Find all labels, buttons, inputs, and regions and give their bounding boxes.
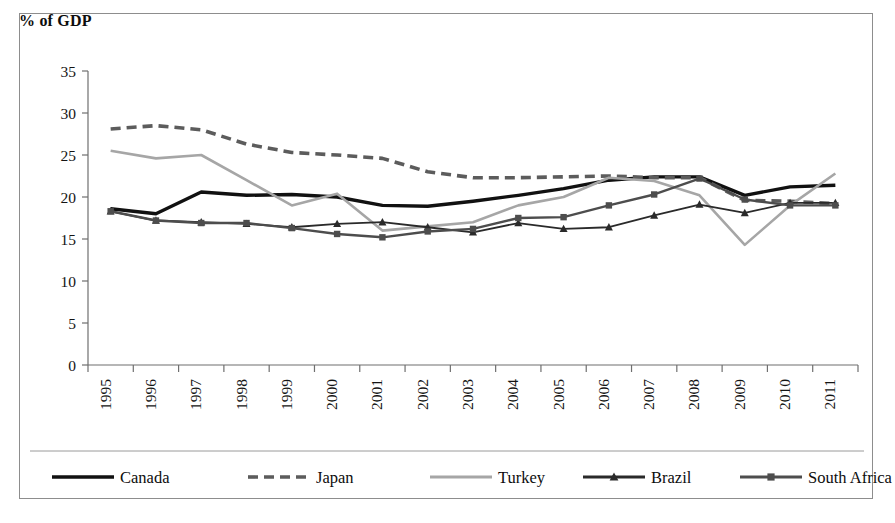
legend-item-label: Canada — [120, 468, 170, 487]
series-marker — [243, 220, 249, 226]
chart-legend: CanadaJapanTurkeyBrazilSouth Africa — [30, 451, 893, 487]
y-tick-label: 10 — [61, 273, 77, 290]
legend-item-label: Japan — [316, 468, 354, 487]
x-tick-label: 2006 — [595, 379, 612, 410]
y-tick-label: 0 — [68, 357, 76, 374]
x-tick-label: 1996 — [142, 379, 159, 410]
series-marker — [334, 231, 340, 237]
series-marker — [289, 225, 295, 231]
y-tick-label: 35 — [61, 63, 77, 80]
x-tick-label: 1999 — [278, 379, 295, 410]
legend-item-turkey[interactable]: Turkey — [430, 468, 546, 487]
series-marker — [198, 220, 204, 226]
series-marker — [695, 200, 703, 207]
x-tick-label: 2005 — [550, 379, 567, 410]
plot-area: 0510152025303519951996199719981999200020… — [61, 63, 859, 411]
legend-item-label: Brazil — [651, 468, 692, 487]
legend-swatch-marker — [767, 473, 774, 480]
series-marker — [153, 217, 159, 223]
y-tick-label: 25 — [61, 147, 77, 164]
series-line-canada — [111, 177, 836, 214]
y-tick-label: 15 — [61, 231, 77, 248]
x-tick-label: 2009 — [731, 379, 748, 410]
x-tick-label: 2011 — [821, 379, 838, 409]
series-marker — [107, 208, 113, 214]
x-tick-label: 2010 — [776, 379, 793, 410]
legend-item-japan[interactable]: Japan — [248, 468, 354, 487]
series-marker — [606, 202, 612, 208]
x-tick-label: 1998 — [233, 379, 250, 410]
series-marker — [651, 191, 657, 197]
x-tick-label: 2008 — [685, 379, 702, 410]
y-tick-label: 30 — [61, 105, 77, 122]
x-tick-label: 1997 — [187, 379, 204, 410]
series-marker — [425, 228, 431, 234]
series-marker — [742, 196, 748, 202]
series-marker — [379, 234, 385, 240]
line-chart: 0510152025303519951996199719981999200020… — [0, 0, 895, 523]
series-marker — [787, 202, 793, 208]
y-tick-label: 5 — [68, 315, 76, 332]
legend-item-canada[interactable]: Canada — [52, 468, 170, 487]
legend-item-brazil[interactable]: Brazil — [583, 468, 692, 487]
y-tick-label: 20 — [61, 189, 77, 206]
series-marker — [470, 226, 476, 232]
series-marker — [560, 214, 566, 220]
x-tick-label: 2003 — [459, 379, 476, 410]
x-tick-label: 1995 — [97, 379, 114, 410]
legend-item-label: South Africa — [808, 468, 893, 487]
x-tick-label: 2000 — [323, 379, 340, 410]
series-marker — [515, 215, 521, 221]
legend-item-label: Turkey — [498, 468, 546, 487]
x-tick-label: 2007 — [640, 379, 657, 410]
series-marker — [832, 202, 838, 208]
legend-item-south-africa[interactable]: South Africa — [740, 468, 893, 487]
x-tick-label: 2002 — [414, 379, 431, 410]
x-tick-label: 2004 — [504, 379, 521, 410]
x-tick-label: 2001 — [368, 379, 385, 410]
series-marker — [696, 175, 702, 181]
